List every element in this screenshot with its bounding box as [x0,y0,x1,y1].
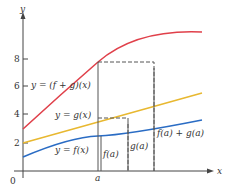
y-ticks [23,59,28,143]
y-axis-label: y [19,4,26,14]
x-axis-arrow-icon [207,169,214,174]
tick-8: 8 [14,54,20,64]
tick-6: 6 [14,81,20,91]
fg-curve-label: y = (f + g)(x) [30,80,91,90]
ga-label: g(a) [130,141,149,151]
fa-label: f(a) [102,149,119,159]
g-curve-label: y = g(x) [54,110,92,120]
fga-label: f(a) + g(a) [156,128,205,138]
tick-4: 4 [14,109,20,119]
function-sum-diagram: y x 0 2 4 6 8 a f(a) g(a) f(a) + g(a) y … [0,0,228,193]
x-axis-label: x [217,166,222,176]
dashed-g [98,118,128,171]
a-label: a [95,173,100,183]
origin-label: 0 [10,176,16,186]
tick-2: 2 [14,138,20,148]
f-curve-label: y = f(x) [54,145,89,155]
